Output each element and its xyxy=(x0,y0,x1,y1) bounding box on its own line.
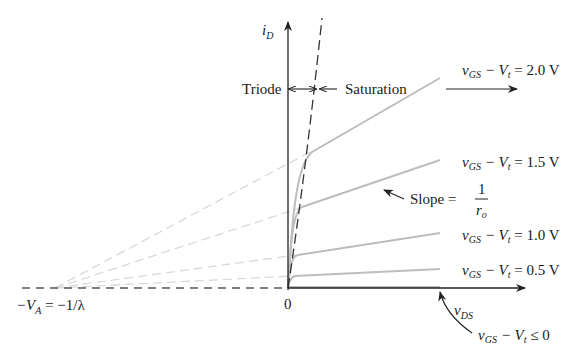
curve-vov-1.5 xyxy=(288,160,440,288)
early-voltage-extrapolations xyxy=(22,152,310,288)
saturation-boundary-dashed xyxy=(288,18,322,288)
curve-label-vov-1.0: vGS − Vt = 1.0 V xyxy=(462,227,560,245)
characteristic-curves xyxy=(288,78,440,288)
extension-line-2.0 xyxy=(55,152,310,288)
curve-vov-0.5 xyxy=(288,269,440,288)
slope-numerator: 1 xyxy=(478,181,486,197)
curve-vov-2.0 xyxy=(288,78,440,288)
curve-label-vov-0.5: vGS − Vt = 0.5 V xyxy=(462,262,560,280)
extension-line-1.0 xyxy=(55,255,296,288)
extension-line-0.5 xyxy=(55,276,293,288)
mosfet-output-characteristics: iD vDS 0 −VA = −1/λ Triode Saturation vG… xyxy=(0,0,585,355)
slope-denominator: ro xyxy=(476,202,487,220)
slope-label: Slope = xyxy=(410,191,456,207)
curve-label-vov-1.5: vGS − Vt = 1.5 V xyxy=(462,154,560,172)
curve-label-vov-2.0: vGS − Vt = 2.0 V xyxy=(462,62,560,80)
origin-label: 0 xyxy=(284,296,292,312)
triode-region-label: Triode xyxy=(242,81,282,97)
curve-label-vov-0: vGS − Vt ≤ 0 xyxy=(478,327,550,345)
x-axis-label: vDS xyxy=(454,302,473,321)
slope-pointer-arrow xyxy=(384,190,404,199)
y-axis-label: iD xyxy=(262,22,274,41)
saturation-region-label: Saturation xyxy=(345,81,407,97)
extension-line-1.5 xyxy=(55,208,300,288)
early-voltage-label: −VA = −1/λ xyxy=(16,297,85,316)
curve-vov-1.0 xyxy=(288,233,440,288)
